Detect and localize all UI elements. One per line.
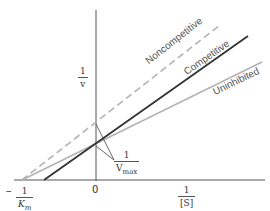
plot-canvas [0,0,270,211]
y-axis-label-den: v [78,79,87,89]
x-axis-label-den: [S] [178,198,195,208]
km-den: Km [16,199,33,211]
fraction-bar [16,197,33,198]
x-axis-label: 1 [S] [178,185,195,208]
km-num: 1 [20,186,30,196]
vmax-annotation: 1 Vmax [114,150,139,177]
km-annotation: 1 Km [16,186,33,211]
fraction-bar [178,196,195,197]
fraction-bar [78,77,88,78]
y-axis-label: 1 v [78,66,88,89]
vmax-pointer-lower [96,146,114,160]
fraction-bar [114,161,139,162]
vmax-den: Vmax [114,163,139,177]
y-axis-label-num: 1 [78,66,88,76]
km-k: K [18,199,25,209]
origin-label: 0 [92,184,98,195]
vmax-num: 1 [122,150,132,160]
vmax-sub: max [123,168,138,176]
km-minus-sign: − [6,186,12,197]
x-axis-label-num: 1 [182,185,192,195]
km-sub: m [25,204,32,211]
